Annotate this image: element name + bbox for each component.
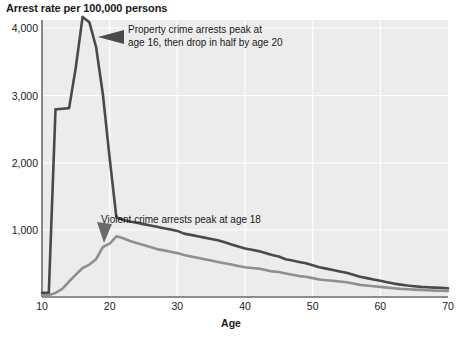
y-tick-3000: 3,000 xyxy=(2,90,38,102)
y-tick-4000: 4,000 xyxy=(2,22,38,34)
gridlines-vertical xyxy=(110,20,381,297)
y-tick-1000: 1,000 xyxy=(2,224,38,236)
x-tick-60: 60 xyxy=(374,300,386,312)
x-axis-label: Age xyxy=(0,317,462,329)
x-tick-20: 20 xyxy=(104,300,116,312)
x-tick-50: 50 xyxy=(307,300,319,312)
property-callout-arrow-icon xyxy=(98,30,124,44)
y-tick-2000: 2,000 xyxy=(2,157,38,169)
x-tick-10: 10 xyxy=(36,300,48,312)
annotation-property-crime: Property crime arrests peak at age 16, t… xyxy=(128,24,283,49)
x-tick-40: 40 xyxy=(239,300,251,312)
chart-figure: Arrest rate per 100,000 persons xyxy=(0,0,462,338)
annotation-violent-crime: Violent crime arrests peak at age 18 xyxy=(101,214,261,227)
x-tick-70: 70 xyxy=(442,300,454,312)
x-tick-30: 30 xyxy=(171,300,183,312)
y-axis-ticks: 4,000 3,000 2,000 1,000 xyxy=(0,0,38,338)
plot-canvas xyxy=(0,0,462,338)
